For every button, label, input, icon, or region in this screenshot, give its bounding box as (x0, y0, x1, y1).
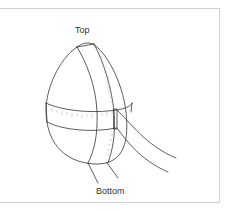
horizontal-tape-top-edge (46, 103, 132, 112)
top-label: Top (75, 25, 90, 35)
vertical-tape-ticks (97, 52, 113, 155)
vertical-tape-left-edge (77, 47, 97, 163)
bottom-label: Bottom (96, 186, 125, 196)
tape-tail-upper (117, 110, 176, 158)
bottom-tape-right-end (107, 163, 118, 178)
vertical-tape-right-edge (94, 44, 115, 163)
bottom-tape-left-end (88, 163, 98, 183)
egg-outline (46, 43, 127, 164)
horizontal-tape-bottom-edge (47, 122, 116, 130)
egg-tape-illustration (0, 0, 235, 211)
